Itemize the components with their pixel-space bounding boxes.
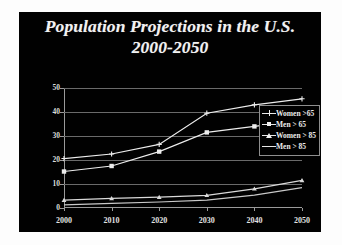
y-axis-tick-label: 0 <box>34 204 60 212</box>
x-axis-tick <box>254 208 255 211</box>
presentation-slide: Population Projections in the U.S. 2000-… <box>19 12 321 232</box>
data-point-marker <box>252 124 256 128</box>
legend-item: Women > 85 <box>262 130 317 141</box>
data-point-marker <box>299 96 304 101</box>
x-axis-tick <box>207 208 208 211</box>
data-point-marker <box>109 164 113 168</box>
legend-marker-icon <box>262 131 276 140</box>
data-point-marker <box>62 169 66 173</box>
chart-legend: Women >65Men > 65Women > 85Men > 85 <box>259 105 320 156</box>
legend-marker-icon <box>262 142 276 151</box>
x-axis-tick-label: 2010 <box>92 216 132 225</box>
x-axis-tick-label: 2020 <box>139 216 179 225</box>
legend-item-label: Women > 85 <box>276 131 316 140</box>
page-title: Population Projections in the U.S. 2000-… <box>19 16 321 58</box>
data-point-marker <box>252 102 257 107</box>
legend-item-label: Men > 65 <box>276 120 306 129</box>
legend-item-label: Women >65 <box>276 109 314 118</box>
legend-item: Men > 65 <box>262 119 317 130</box>
legend-marker-icon <box>262 109 276 118</box>
data-point-marker <box>205 130 209 134</box>
legend-item: Men > 85 <box>262 141 317 152</box>
x-axis-tick <box>302 208 303 211</box>
legend-marker-icon <box>262 120 276 129</box>
title-line-2: 2000-2050 <box>19 37 321 58</box>
x-axis-tick <box>64 208 65 211</box>
x-axis-tick-label: 2000 <box>44 216 84 225</box>
title-line-1: Population Projections in the U.S. <box>19 16 321 37</box>
x-axis-tick-label: 2040 <box>234 216 274 225</box>
legend-item-label: Men > 85 <box>276 142 306 151</box>
x-axis-tick <box>159 208 160 211</box>
slide-frame: Population Projections in the U.S. 2000-… <box>0 0 342 245</box>
line-chart: Population in millions 01020304050 20002… <box>19 62 321 232</box>
x-axis-tick <box>112 208 113 211</box>
legend-item: Women >65 <box>262 108 317 119</box>
x-axis-tick-label: 2050 <box>282 216 321 225</box>
y-axis-tick-label: 20 <box>34 156 60 164</box>
y-axis-tick-label: 10 <box>34 180 60 188</box>
series-line <box>64 180 302 200</box>
y-axis-tick-label: 30 <box>34 132 60 140</box>
x-axis-tick-label: 2030 <box>187 216 227 225</box>
y-axis-tick-label: 40 <box>34 108 60 116</box>
data-point-marker <box>157 149 161 153</box>
data-point-marker <box>109 151 114 156</box>
y-axis-tick-label: 50 <box>34 84 60 92</box>
